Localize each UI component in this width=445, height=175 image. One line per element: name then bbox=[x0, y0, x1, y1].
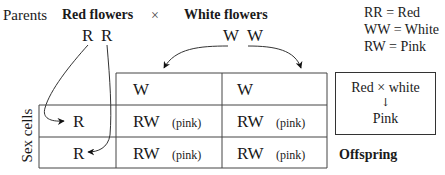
arrow-white-1 bbox=[164, 46, 228, 68]
sex-cells-label: Sex cells bbox=[20, 102, 35, 170]
arrow-white-2 bbox=[248, 46, 301, 68]
row-allele-r2: R bbox=[73, 145, 84, 162]
cell-note: (pink) bbox=[172, 149, 201, 161]
cell-genotype: RW bbox=[237, 113, 263, 130]
summary-bottom: Pink bbox=[336, 112, 435, 126]
summary-top: Red × white bbox=[336, 81, 435, 95]
cell-genotype: RW bbox=[237, 145, 263, 162]
header-allele-w1: W bbox=[133, 81, 149, 98]
cell-note: (pink) bbox=[172, 117, 201, 129]
arrow-red-2 bbox=[88, 45, 111, 152]
cell-genotype: RW bbox=[133, 145, 159, 162]
cell-note: (pink) bbox=[276, 149, 305, 161]
offspring-label: Offspring bbox=[339, 148, 397, 162]
row-allele-r1: R bbox=[73, 113, 84, 130]
cell-genotype: RW bbox=[133, 113, 159, 130]
cell-note: (pink) bbox=[276, 117, 305, 129]
header-allele-w2: W bbox=[237, 81, 253, 98]
down-arrow-icon: ↓ bbox=[336, 97, 435, 108]
cross-summary-box: Red × white ↓ Pink bbox=[335, 72, 436, 135]
arrow-red-1 bbox=[44, 45, 88, 121]
